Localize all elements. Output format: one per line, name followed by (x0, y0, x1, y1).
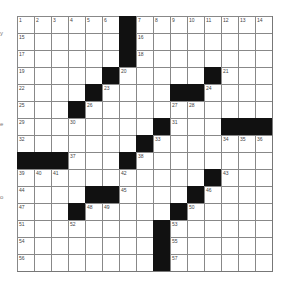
grid-cell[interactable] (187, 33, 204, 50)
grid-cell[interactable] (34, 118, 51, 135)
grid-cell[interactable] (136, 220, 153, 237)
grid-cell[interactable] (68, 50, 85, 67)
grid-cell[interactable] (51, 186, 68, 203)
grid-cell[interactable]: 4 (68, 16, 85, 33)
grid-cell[interactable] (68, 237, 85, 254)
grid-cell[interactable] (238, 169, 255, 186)
grid-cell[interactable] (119, 203, 136, 220)
grid-cell[interactable]: 57 (170, 254, 187, 271)
grid-cell[interactable]: 35 (238, 135, 255, 152)
grid-cell[interactable] (153, 152, 170, 169)
grid-cell[interactable] (102, 118, 119, 135)
grid-cell[interactable]: 13 (238, 16, 255, 33)
grid-cell[interactable]: 50 (187, 203, 204, 220)
grid-cell[interactable] (68, 67, 85, 84)
grid-cell[interactable] (136, 254, 153, 271)
grid-cell[interactable]: 5 (85, 16, 102, 33)
grid-cell[interactable]: 7 (136, 16, 153, 33)
grid-cell[interactable] (238, 101, 255, 118)
grid-cell[interactable] (51, 101, 68, 118)
grid-cell[interactable]: 39 (17, 169, 34, 186)
grid-cell[interactable] (221, 84, 238, 101)
grid-cell[interactable] (119, 254, 136, 271)
grid-cell[interactable] (238, 254, 255, 271)
grid-cell[interactable] (136, 237, 153, 254)
grid-cell[interactable] (136, 169, 153, 186)
grid-cell[interactable] (170, 152, 187, 169)
grid-cell[interactable] (238, 67, 255, 84)
grid-cell[interactable] (204, 152, 221, 169)
grid-cell[interactable] (68, 254, 85, 271)
grid-cell[interactable] (136, 101, 153, 118)
grid-cell[interactable] (102, 169, 119, 186)
grid-cell[interactable] (68, 84, 85, 101)
grid-cell[interactable] (255, 220, 272, 237)
grid-cell[interactable]: 30 (68, 118, 85, 135)
grid-cell[interactable] (221, 186, 238, 203)
grid-cell[interactable] (34, 220, 51, 237)
grid-cell[interactable] (221, 220, 238, 237)
grid-cell[interactable] (102, 101, 119, 118)
grid-cell[interactable] (238, 237, 255, 254)
grid-cell[interactable] (85, 152, 102, 169)
grid-cell[interactable] (187, 169, 204, 186)
grid-cell[interactable] (153, 84, 170, 101)
grid-cell[interactable]: 27 (170, 101, 187, 118)
grid-cell[interactable] (136, 118, 153, 135)
grid-cell[interactable]: 42 (119, 169, 136, 186)
grid-cell[interactable] (221, 33, 238, 50)
grid-cell[interactable] (238, 203, 255, 220)
grid-cell[interactable] (85, 220, 102, 237)
grid-cell[interactable] (221, 152, 238, 169)
grid-cell[interactable] (170, 186, 187, 203)
grid-cell[interactable] (34, 135, 51, 152)
grid-cell[interactable]: 17 (17, 50, 34, 67)
grid-cell[interactable] (51, 135, 68, 152)
grid-cell[interactable] (51, 237, 68, 254)
grid-cell[interactable]: 8 (153, 16, 170, 33)
grid-cell[interactable] (153, 169, 170, 186)
grid-cell[interactable] (187, 118, 204, 135)
grid-cell[interactable]: 3 (51, 16, 68, 33)
grid-cell[interactable] (204, 220, 221, 237)
grid-cell[interactable] (102, 254, 119, 271)
grid-cell[interactable] (187, 237, 204, 254)
grid-cell[interactable] (153, 203, 170, 220)
grid-cell[interactable] (255, 237, 272, 254)
grid-cell[interactable] (238, 50, 255, 67)
grid-cell[interactable]: 9 (170, 16, 187, 33)
grid-cell[interactable]: 48 (85, 203, 102, 220)
grid-cell[interactable]: 40 (34, 169, 51, 186)
grid-cell[interactable] (102, 237, 119, 254)
grid-cell[interactable] (221, 101, 238, 118)
grid-cell[interactable]: 51 (17, 220, 34, 237)
grid-cell[interactable] (153, 33, 170, 50)
grid-cell[interactable] (136, 186, 153, 203)
grid-cell[interactable] (170, 135, 187, 152)
grid-cell[interactable] (238, 220, 255, 237)
grid-cell[interactable] (119, 118, 136, 135)
grid-cell[interactable] (255, 67, 272, 84)
grid-cell[interactable]: 54 (17, 237, 34, 254)
grid-cell[interactable]: 20 (119, 67, 136, 84)
grid-cell[interactable]: 43 (221, 169, 238, 186)
grid-cell[interactable]: 46 (204, 186, 221, 203)
grid-cell[interactable] (119, 84, 136, 101)
grid-cell[interactable] (102, 135, 119, 152)
grid-cell[interactable] (119, 220, 136, 237)
grid-cell[interactable] (85, 237, 102, 254)
grid-cell[interactable] (51, 50, 68, 67)
grid-cell[interactable]: 32 (17, 135, 34, 152)
grid-cell[interactable] (85, 254, 102, 271)
grid-cell[interactable] (34, 237, 51, 254)
grid-cell[interactable]: 29 (17, 118, 34, 135)
grid-cell[interactable] (136, 84, 153, 101)
grid-cell[interactable] (255, 50, 272, 67)
grid-cell[interactable]: 12 (221, 16, 238, 33)
grid-cell[interactable]: 44 (17, 186, 34, 203)
grid-cell[interactable] (34, 186, 51, 203)
grid-cell[interactable] (85, 50, 102, 67)
grid-cell[interactable] (85, 33, 102, 50)
grid-cell[interactable] (102, 220, 119, 237)
grid-cell[interactable]: 24 (204, 84, 221, 101)
